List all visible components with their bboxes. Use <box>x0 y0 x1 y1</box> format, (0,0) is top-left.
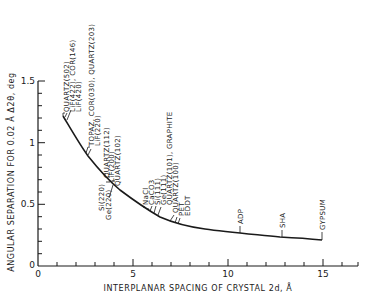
y-tick-label: 1 <box>29 138 35 148</box>
x-tick-label: 15 <box>317 269 328 279</box>
annotation-sha: SHA <box>279 213 287 228</box>
x-tick-label: 5 <box>130 269 136 279</box>
crystal-annotations: QUARTZ(502) LiF(422), COR(146) LiF(420) … <box>63 24 327 230</box>
annotation-lif-220: LiF(220) <box>94 115 102 146</box>
x-axis-title: INTERPLANAR SPACING OF CRYSTAL 2d, Å <box>104 282 293 293</box>
x-ticks <box>57 259 358 266</box>
x-tick-labels: 0 5 10 15 <box>35 269 329 279</box>
annotation-ge-220: Ge(220) <box>105 189 113 220</box>
y-tick-label: 0.5 <box>21 199 35 209</box>
y-ticks <box>38 81 45 254</box>
annotation-gypsum: GYPSUM <box>319 199 327 230</box>
y-axis-title: ANGULAR SEPARATION FOR 0.02 Å Δ2θ, deg <box>5 72 16 272</box>
x-tick-label: 10 <box>222 269 234 279</box>
annotation-quartz-102: QUARTZ(102) <box>114 135 122 186</box>
annotation-eddt: EDDT <box>184 195 192 216</box>
chart: 0 5 10 15 0 0.5 1 1.5 INTERPLANAR SPACIN… <box>0 0 368 299</box>
y-tick-labels: 0 0.5 1 1.5 <box>21 76 36 270</box>
annotation-adp: ADP <box>237 209 245 224</box>
x-tick-label: 0 <box>35 269 41 279</box>
y-tick-label: 0 <box>29 260 35 270</box>
y-tick-label: 1.5 <box>21 76 35 86</box>
annotation-lif-420: LiF(420) <box>75 81 83 112</box>
